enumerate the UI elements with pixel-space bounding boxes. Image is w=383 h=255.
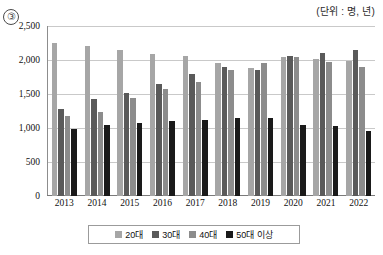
bar: [130, 98, 136, 196]
bar: [117, 50, 123, 196]
bar: [150, 54, 156, 196]
y-tick-label: 2,500: [19, 21, 40, 31]
bar: [58, 109, 64, 196]
bar: [255, 70, 261, 196]
bar: [65, 116, 71, 196]
legend-swatch-icon: [226, 231, 233, 238]
y-tick-label: 0: [35, 191, 40, 201]
bar: [156, 84, 162, 196]
bar: [294, 57, 300, 196]
bar: [183, 56, 189, 196]
bar: [268, 118, 274, 196]
bar-group: [113, 26, 146, 196]
legend-item[interactable]: 30대: [152, 228, 180, 241]
x-tick-label: 2013: [48, 198, 81, 208]
legend-swatch-icon: [152, 231, 159, 238]
plot-area: [47, 26, 375, 196]
bar: [137, 123, 143, 196]
bar: [228, 70, 234, 196]
x-tick-label: 2018: [212, 198, 245, 208]
bar: [124, 93, 130, 196]
x-tick-label: 2019: [244, 198, 277, 208]
bar: [313, 59, 319, 196]
bar: [52, 43, 58, 196]
bar-group: [179, 26, 212, 196]
x-tick-label: 2021: [310, 198, 343, 208]
bar: [222, 67, 228, 196]
bar: [320, 53, 326, 196]
y-tick-label: 500: [26, 157, 40, 167]
bar: [85, 46, 91, 196]
bar: [366, 131, 372, 196]
bar: [196, 82, 202, 196]
legend-label: 50대 이상: [236, 228, 273, 241]
bar: [169, 121, 175, 196]
x-tick-label: 2014: [81, 198, 114, 208]
bar: [248, 68, 254, 196]
y-axis-tick-labels: 05001,0001,5002,0002,500: [0, 26, 43, 196]
bar-group: [48, 26, 81, 196]
bar: [346, 61, 352, 196]
bar: [333, 126, 339, 196]
x-tick-label: 2020: [277, 198, 310, 208]
bar-group: [81, 26, 114, 196]
bar: [261, 63, 267, 196]
x-axis-tick-labels: 2013201420152016201720182019202020212022: [48, 198, 375, 208]
bar-group: [146, 26, 179, 196]
legend-item[interactable]: 40대: [189, 228, 217, 241]
bar: [281, 57, 287, 196]
bar: [359, 67, 365, 196]
figure-number-badge: ③: [3, 9, 19, 25]
y-tick-label: 1,000: [19, 123, 40, 133]
bar: [300, 125, 306, 196]
bar: [353, 50, 359, 196]
bar-group: [212, 26, 245, 196]
y-tick-label: 1,500: [19, 89, 40, 99]
legend-label: 40대: [199, 228, 217, 241]
x-tick-label: 2022: [342, 198, 375, 208]
bar: [287, 56, 293, 196]
bar: [215, 63, 221, 196]
bar: [71, 129, 77, 196]
x-tick-label: 2016: [146, 198, 179, 208]
bar: [202, 120, 208, 196]
legend-item[interactable]: 50대 이상: [226, 228, 273, 241]
legend-swatch-icon: [115, 231, 122, 238]
bar: [189, 74, 195, 196]
y-tick-label: 2,000: [19, 55, 40, 65]
bar-group: [310, 26, 343, 196]
legend-label: 20대: [125, 228, 143, 241]
bar: [104, 125, 110, 196]
bar-group: [244, 26, 277, 196]
bar-group: [277, 26, 310, 196]
chart-figure: ③ (단위 : 명, 년) 05001,0001,5002,0002,500 2…: [0, 0, 383, 255]
legend-item[interactable]: 20대: [115, 228, 143, 241]
bar-groups: [48, 26, 375, 196]
bar: [163, 89, 169, 196]
x-tick-label: 2015: [113, 198, 146, 208]
bar: [326, 62, 332, 196]
unit-note-label: (단위 : 명, 년): [316, 3, 375, 18]
x-tick-label: 2017: [179, 198, 212, 208]
chart-legend: 20대30대40대50대 이상: [88, 225, 300, 244]
bar-group: [342, 26, 375, 196]
legend-swatch-icon: [189, 231, 196, 238]
bar: [235, 118, 241, 196]
bar: [91, 99, 97, 196]
legend-label: 30대: [162, 228, 180, 241]
bar: [98, 112, 104, 196]
